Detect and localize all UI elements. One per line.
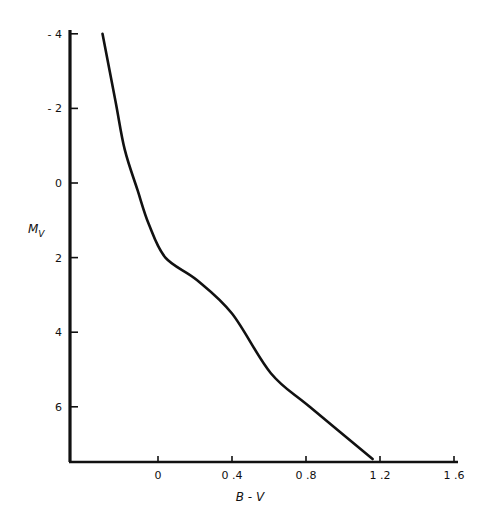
x-tick-label: 0 .4 [222,469,243,482]
hr-diagram-chart: 00 .40 .81 .21 .6- 4- 20246 B - V MV [0,0,487,526]
y-tick-label: 6 [55,401,62,414]
y-tick-label: 0 [55,177,62,190]
x-tick-label: 0 [155,469,162,482]
main-sequence-curve [103,34,373,459]
y-tick-label: 2 [55,252,62,265]
x-tick-label: 1 .2 [370,469,391,482]
x-axis-title: B - V [236,490,265,504]
y-tick-label: 4 [55,326,62,339]
axes [69,30,458,462]
y-tick-label: - 4 [48,28,62,41]
y-tick-label: - 2 [48,102,62,115]
x-tick-label: 1 .6 [444,469,465,482]
x-tick-label: 0 .8 [296,469,317,482]
tick-labels: 00 .40 .81 .21 .6- 4- 20246 [48,28,465,482]
y-axis-title: MV [28,222,45,239]
ticks [70,34,454,462]
